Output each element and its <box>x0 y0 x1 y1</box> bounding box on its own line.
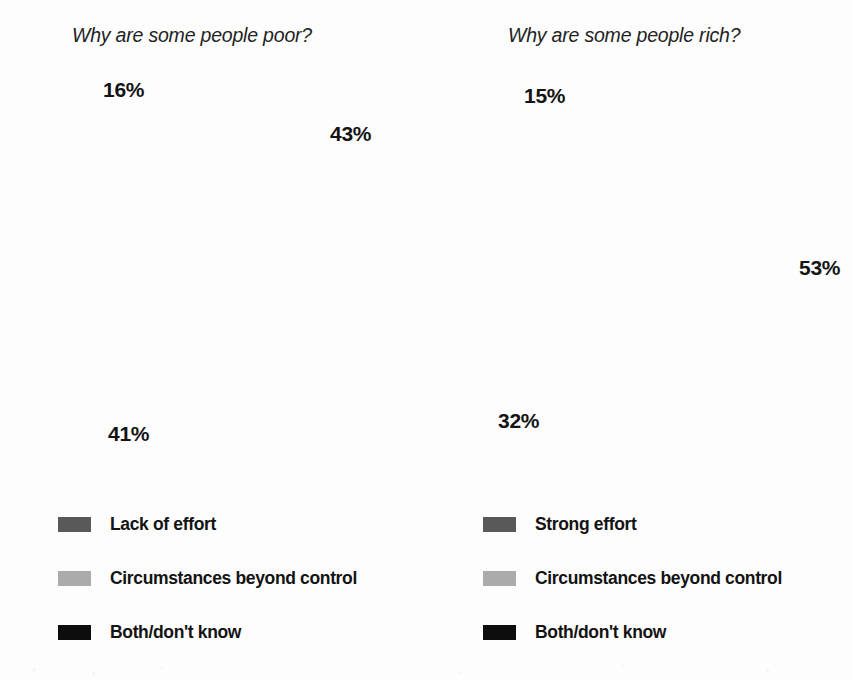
pie-svg-poor <box>30 92 360 422</box>
chart-panel-rich: Why are some people rich? 15% 53% 32% St… <box>430 0 853 680</box>
legend-swatch-icon <box>58 571 91 586</box>
legend-item-label: Lack of effort <box>110 514 216 535</box>
legend-item-label: Both/don't know <box>110 622 241 643</box>
legend-item[interactable]: Strong effort <box>483 497 782 551</box>
chart-panel-poor: Why are some people poor? 16% 43% 41% La… <box>0 0 430 680</box>
two-pie-chart-figure: Why are some people poor? 16% 43% 41% La… <box>0 0 853 680</box>
legend-swatch-icon <box>58 517 91 532</box>
legend-item[interactable]: Both/don't know <box>58 605 357 659</box>
pie-value-label-rich-circumstances: 32% <box>498 409 539 433</box>
legend-item-label: Circumstances beyond control <box>535 568 782 589</box>
legend-item-label: Strong effort <box>535 514 636 535</box>
chart-title-poor: Why are some people poor? <box>72 24 312 47</box>
pie-value-label-poor-lack-of-effort: 43% <box>330 122 371 146</box>
legend-swatch-icon <box>58 625 91 640</box>
pie-chart-rich <box>460 95 790 425</box>
legend-rich: Strong effort Circumstances beyond contr… <box>483 497 782 659</box>
legend-item[interactable]: Lack of effort <box>58 497 357 551</box>
pie-value-label-poor-circumstances: 41% <box>108 422 149 446</box>
legend-swatch-icon <box>483 571 516 586</box>
legend-item[interactable]: Circumstances beyond control <box>58 551 357 605</box>
legend-swatch-icon <box>483 625 516 640</box>
legend-swatch-icon <box>483 517 516 532</box>
legend-item[interactable]: Both/don't know <box>483 605 782 659</box>
legend-poor: Lack of effort Circumstances beyond cont… <box>58 497 357 659</box>
pie-value-label-rich-strong-effort: 53% <box>799 256 840 280</box>
pie-value-label-rich-both-dont-know: 15% <box>524 84 565 108</box>
pie-svg-rich <box>460 95 790 425</box>
chart-title-rich: Why are some people rich? <box>508 24 740 47</box>
legend-item[interactable]: Circumstances beyond control <box>483 551 782 605</box>
legend-item-label: Both/don't know <box>535 622 666 643</box>
pie-chart-poor <box>30 92 360 422</box>
pie-value-label-poor-both-dont-know: 16% <box>103 78 144 102</box>
legend-item-label: Circumstances beyond control <box>110 568 357 589</box>
